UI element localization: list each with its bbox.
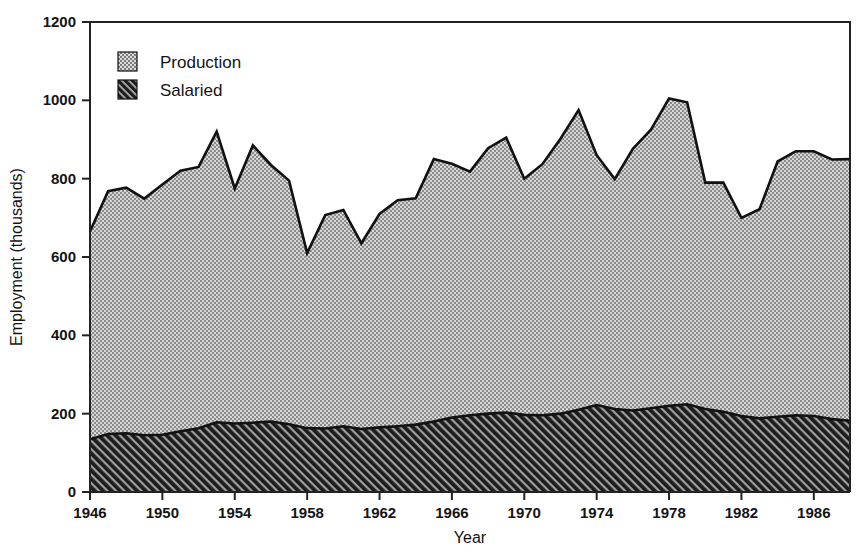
legend-swatch-salaried-icon	[118, 80, 137, 99]
y-tick-label: 600	[51, 248, 76, 265]
y-tick-label: 400	[51, 326, 76, 343]
y-tick-label: 0	[68, 483, 76, 500]
x-tick-label: 1978	[652, 504, 685, 521]
stacked-area-chart: 020040060080010001200 194619501954195819…	[0, 0, 860, 555]
y-axis-title: Employment (thousands)	[8, 168, 25, 346]
legend-label-salaried: Salaried	[160, 81, 222, 100]
x-tick-label: 1954	[218, 504, 252, 521]
y-tick-label: 200	[51, 405, 76, 422]
x-tick-label: 1982	[725, 504, 758, 521]
x-axis-title: Year	[454, 529, 487, 546]
x-tick-label: 1958	[290, 504, 323, 521]
x-tick-label: 1946	[73, 504, 106, 521]
x-tick-label: 1974	[580, 504, 614, 521]
x-tick-label: 1966	[435, 504, 468, 521]
y-tick-label: 1200	[43, 13, 76, 30]
x-tick-label: 1950	[146, 504, 179, 521]
chart-figure: 020040060080010001200 194619501954195819…	[0, 0, 860, 555]
legend-label-production: Production	[160, 53, 241, 72]
legend-swatch-production-icon	[118, 52, 137, 71]
x-tick-label: 1970	[508, 504, 541, 521]
x-tick-label: 1962	[363, 504, 396, 521]
x-tick-label: 1986	[797, 504, 830, 521]
y-tick-label: 1000	[43, 91, 76, 108]
y-tick-label: 800	[51, 170, 76, 187]
